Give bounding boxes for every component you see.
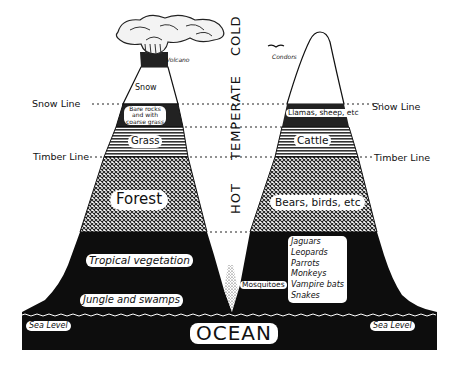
tropical-animals-list: Jaguars Leopards Parrots Monkeys Vampire… bbox=[288, 236, 347, 303]
sea-level-label-right: Sea Level bbox=[370, 321, 415, 331]
animal-item: Jaguars bbox=[291, 237, 344, 248]
tropical-vegetation-label: Tropical vegetation bbox=[86, 254, 193, 267]
climate-temperate: TEMPERATE bbox=[228, 62, 243, 160]
cattle-label: Cattle bbox=[294, 134, 331, 147]
climate-cold: COLD bbox=[228, 15, 243, 56]
timber-line-label-right: Timber Line bbox=[374, 153, 430, 163]
snow-peak bbox=[287, 32, 344, 104]
condor-icon bbox=[268, 45, 284, 47]
bears-birds-label: Bears, birds, etc bbox=[270, 195, 365, 210]
animal-item: Vampire bats bbox=[291, 280, 344, 291]
animal-item: Monkeys bbox=[291, 269, 344, 280]
snow-line-label-left: Snow Line bbox=[32, 99, 80, 109]
sea-level-label-left: Sea Level bbox=[26, 321, 71, 331]
volcano-label: Volcano bbox=[166, 57, 190, 63]
climate-hot: HOT bbox=[228, 166, 243, 214]
snow-line-label-right: Snow Line bbox=[372, 102, 420, 112]
bare-rocks-label: Bare rocks and with coarse grass bbox=[124, 106, 166, 125]
jungle-swamps-label: Jungle and swamps bbox=[80, 294, 183, 307]
snow-label: Snow bbox=[135, 84, 157, 92]
timber-line-label-left: Timber Line bbox=[33, 152, 89, 162]
animal-item: Snakes bbox=[291, 291, 344, 302]
climate-zones-label: HOTTEMPERATECOLD bbox=[228, 15, 243, 214]
grass-label: Grass bbox=[128, 135, 162, 148]
animal-item: Leopards bbox=[291, 248, 344, 259]
llamas-label: Llamas, sheep, etc bbox=[286, 109, 361, 117]
forest-label: Forest bbox=[110, 190, 168, 210]
ocean-label: OCEAN bbox=[190, 323, 278, 344]
condors-label: Condors bbox=[272, 54, 297, 60]
mosquitoes-label: Mosquitoes bbox=[240, 281, 287, 289]
animal-item: Parrots bbox=[291, 259, 344, 270]
